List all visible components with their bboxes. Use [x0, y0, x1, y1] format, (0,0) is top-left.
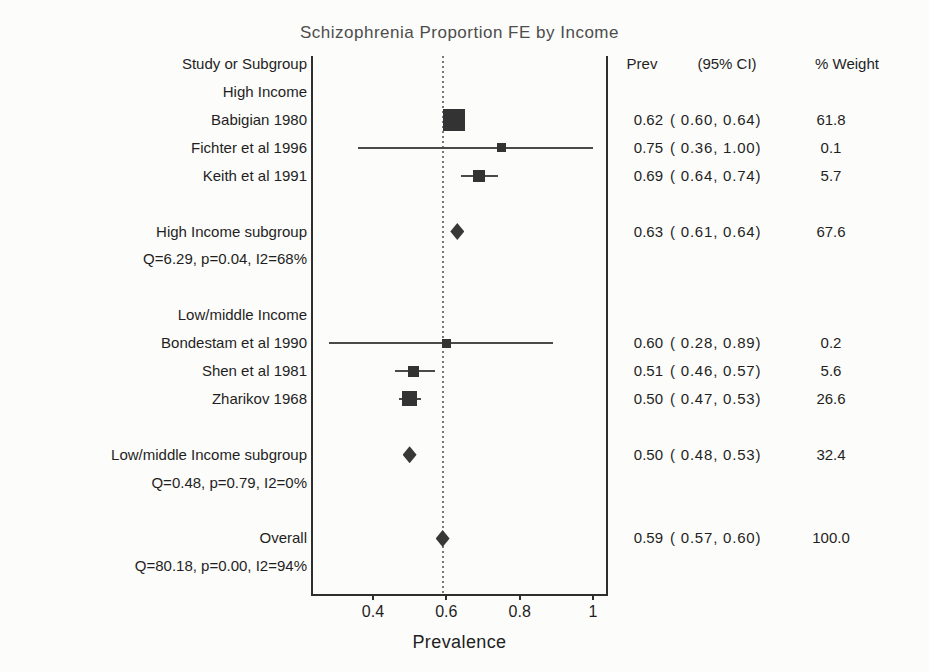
prev-value: 0.69: [613, 167, 663, 185]
study-label: Bondestam et al 1990: [0, 334, 307, 352]
reference-dotted-line: [442, 56, 444, 594]
weight-value: 0.1: [786, 139, 876, 157]
effect-square: [408, 366, 419, 377]
ci-line: [329, 342, 553, 344]
summary-label: Overall: [0, 529, 307, 547]
group-label: High Income: [0, 83, 307, 101]
chart-title: Schizophrenia Proportion FE by Income: [162, 23, 757, 43]
ci-value: ( 0.61, 0.64): [670, 223, 761, 241]
ci-value: ( 0.36, 1.00): [670, 139, 761, 157]
column-header-weight: % Weight: [797, 55, 897, 73]
prev-value: 0.62: [613, 111, 663, 129]
prev-value: 0.51: [613, 362, 663, 380]
plot-bottom-axis: [311, 594, 608, 596]
prev-value: 0.63: [613, 223, 663, 241]
prev-value: 0.50: [613, 390, 663, 408]
stats-label: Q=6.29, p=0.04, I2=68%: [0, 250, 307, 268]
summary-diamond: [450, 223, 464, 240]
stats-label: Q=80.18, p=0.00, I2=94%: [0, 557, 307, 575]
summary-label: Low/middle Income subgroup: [0, 446, 307, 464]
plot-right-axis: [606, 56, 608, 595]
ci-value: ( 0.46, 0.57): [670, 362, 761, 380]
weight-value: 61.8: [786, 111, 876, 129]
weight-value: 100.0: [786, 529, 876, 547]
x-axis-label: Prevalence: [312, 632, 607, 653]
x-tick-label: 0.8: [500, 603, 540, 621]
x-tick: [372, 595, 374, 600]
effect-square: [443, 109, 465, 131]
prev-value: 0.50: [613, 446, 663, 464]
study-label: Fichter et al 1996: [0, 139, 307, 157]
weight-value: 5.6: [786, 362, 876, 380]
x-tick: [445, 595, 447, 600]
x-tick-label: 0.6: [426, 603, 466, 621]
study-label: Shen et al 1981: [0, 362, 307, 380]
prev-value: 0.60: [613, 334, 663, 352]
column-header-ci: (95% CI): [677, 55, 777, 73]
ci-value: ( 0.48, 0.53): [670, 446, 761, 464]
weight-value: 67.6: [786, 223, 876, 241]
ci-value: ( 0.57, 0.60): [670, 529, 761, 547]
summary-diamond: [403, 446, 417, 463]
x-tick: [519, 595, 521, 600]
study-label: Zharikov 1968: [0, 390, 307, 408]
weight-value: 0.2: [786, 334, 876, 352]
weight-value: 32.4: [786, 446, 876, 464]
study-label: Keith et al 1991: [0, 167, 307, 185]
ci-value: ( 0.60, 0.64): [670, 111, 761, 129]
ci-value: ( 0.64, 0.74): [670, 167, 761, 185]
x-tick-label: 1: [573, 603, 613, 621]
effect-square: [497, 143, 506, 152]
effect-square: [402, 391, 417, 406]
prev-value: 0.75: [613, 139, 663, 157]
group-label: Low/middle Income: [0, 306, 307, 324]
weight-value: 26.6: [786, 390, 876, 408]
x-tick-label: 0.4: [353, 603, 393, 621]
study-label: Babigian 1980: [0, 111, 307, 129]
effect-square: [473, 170, 485, 182]
plot-left-axis: [311, 56, 313, 595]
ci-value: ( 0.28, 0.89): [670, 334, 761, 352]
forest-plot-canvas: Schizophrenia Proportion FE by Income St…: [0, 0, 929, 672]
summary-diamond: [436, 530, 450, 547]
weight-value: 5.7: [786, 167, 876, 185]
stats-label: Q=0.48, p=0.79, I2=0%: [0, 474, 307, 492]
ci-line: [358, 147, 593, 149]
effect-square: [442, 339, 451, 348]
prev-value: 0.59: [613, 529, 663, 547]
ci-value: ( 0.47, 0.53): [670, 390, 761, 408]
column-header-study: Study or Subgroup: [0, 55, 307, 73]
column-header-prev: Prev: [612, 55, 672, 73]
x-tick: [592, 595, 594, 600]
summary-label: High Income subgroup: [0, 223, 307, 241]
